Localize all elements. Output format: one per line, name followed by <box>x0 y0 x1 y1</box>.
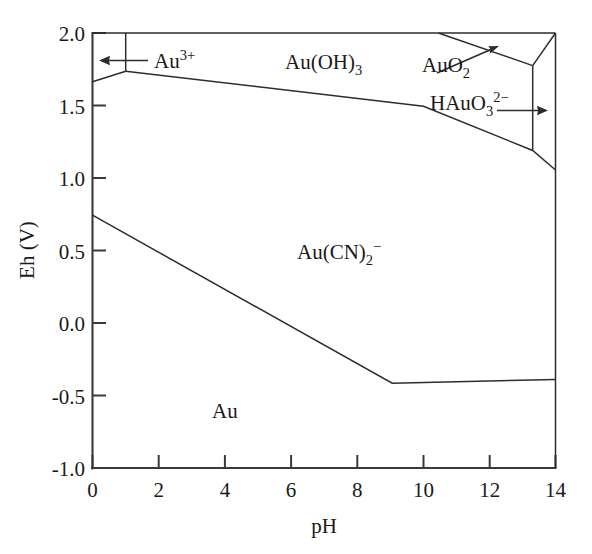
label-auo2-base: AuO <box>422 53 463 77</box>
phase-label-aucn2: Au(CN)2− <box>297 238 381 268</box>
phase-label-au: Au <box>212 399 238 423</box>
phase-labels: Au3+ Au(OH)3 AuO2 HAuO32− Au(CN)2− <box>154 47 509 423</box>
svg-text:Au(OH)3: Au(OH)3 <box>285 50 362 78</box>
x-tick-labels: 0 2 4 6 8 10 12 14 <box>87 478 566 502</box>
y-tick-label-6: -1.0 <box>52 457 85 481</box>
x-tick-label-0: 0 <box>87 478 98 502</box>
y-tick-label-1: 1.5 <box>59 95 85 119</box>
svg-text:Au3+: Au3+ <box>154 47 195 73</box>
x-tick-label-3: 6 <box>286 478 297 502</box>
label-au-base: Au <box>212 399 238 423</box>
boundary-hauo3-topright <box>533 33 556 66</box>
y-tick-label-4: 0.0 <box>59 312 85 336</box>
label-au3plus-base: Au <box>154 49 180 73</box>
svg-text:Au(CN)2−: Au(CN)2− <box>297 238 381 268</box>
label-au3plus-sup: 3+ <box>180 47 195 63</box>
label-aucn2-base: Au(CN) <box>297 240 366 264</box>
y-ticks <box>92 33 106 468</box>
x-tick-label-1: 2 <box>153 478 164 502</box>
x-tick-label-6: 12 <box>479 478 500 502</box>
x-axis-title: pH <box>311 514 337 538</box>
label-hauo3-sup: 2− <box>493 89 508 105</box>
label-hauo3-sub: 3 <box>486 103 493 119</box>
y-tick-label-5: -0.5 <box>52 385 85 409</box>
phase-label-auoh3: Au(OH)3 <box>285 50 362 78</box>
phase-label-auo2: AuO2 <box>422 53 470 81</box>
label-auoh3-base: Au(OH) <box>285 50 355 74</box>
pourbaix-diagram-figure: { "chart_data": { "type": "line", "title… <box>0 0 592 554</box>
x-tick-label-5: 10 <box>413 478 434 502</box>
svg-text:HAuO32−: HAuO32− <box>430 89 509 119</box>
x-tick-label-7: 14 <box>545 478 567 502</box>
label-aucn2-sup: − <box>373 238 381 254</box>
x-ticks <box>93 455 556 468</box>
x-tick-label-4: 8 <box>352 478 363 502</box>
boundary-auoh3-aucn2 <box>126 71 556 170</box>
boundary-au3plus-left-stub <box>93 71 126 82</box>
chart-canvas: 2.0 1.5 1.0 0.5 0.0 -0.5 -1.0 0 2 4 6 8 … <box>0 0 592 554</box>
svg-text:Au: Au <box>212 399 238 423</box>
y-tick-label-0: 2.0 <box>59 22 85 46</box>
label-aucn2-sub: 2 <box>366 252 373 268</box>
phase-label-au3plus: Au3+ <box>154 47 195 73</box>
y-tick-label-2: 1.0 <box>59 167 85 191</box>
label-hauo3-base: HAuO <box>430 91 486 115</box>
y-axis-title: Eh (V) <box>15 221 39 279</box>
y-tick-labels: 2.0 1.5 1.0 0.5 0.0 -0.5 -1.0 <box>52 22 85 481</box>
label-auo2-sub: 2 <box>463 65 470 81</box>
phase-label-hauo3: HAuO32− <box>430 89 509 119</box>
label-auoh3-sub: 3 <box>355 62 362 78</box>
x-tick-label-2: 4 <box>220 478 231 502</box>
hauo3-right-arrow-icon <box>497 106 548 115</box>
svg-text:AuO2: AuO2 <box>422 53 470 81</box>
au3plus-left-arrow-icon <box>99 56 148 65</box>
y-tick-label-3: 0.5 <box>59 240 85 264</box>
